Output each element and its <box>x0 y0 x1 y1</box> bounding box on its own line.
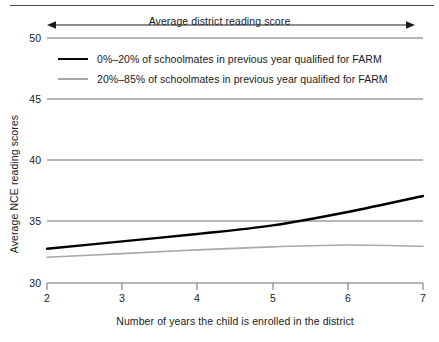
x-tick-label: 7 <box>408 292 438 304</box>
legend-item-black: 0%–20% of schoolmates in previous year q… <box>58 49 398 69</box>
x-tick-label: 6 <box>333 292 363 304</box>
y-tick-label: 50 <box>1 32 41 44</box>
x-tick-label: 3 <box>107 292 137 304</box>
x-tick-label: 2 <box>32 292 62 304</box>
chart-figure: Average district reading score <box>0 0 439 342</box>
x-axis-title: Number of years the child is enrolled in… <box>47 315 423 327</box>
legend-swatch-black-line-icon <box>58 53 88 65</box>
y-tick-label: 30 <box>1 277 41 289</box>
legend-label: 0%–20% of schoolmates in previous year q… <box>97 53 382 65</box>
y-tick-label: 40 <box>1 154 41 166</box>
legend-label: 20%–85% of schoolmates in previous year … <box>97 73 388 85</box>
x-axis-ticks <box>47 283 423 290</box>
chart-legend: 0%–20% of schoolmates in previous year q… <box>58 49 398 89</box>
x-tick-label: 4 <box>182 292 212 304</box>
series-line-gray <box>47 245 423 257</box>
annotation-arrow <box>47 21 415 28</box>
legend-item-gray: 20%–85% of schoolmates in previous year … <box>58 69 398 89</box>
y-tick-label: 35 <box>1 215 41 227</box>
y-axis-tick-labels: 50 45 40 35 30 <box>0 0 41 342</box>
y-axis-title: Average NCE reading scores <box>8 99 20 269</box>
x-tick-label: 5 <box>258 292 288 304</box>
y-tick-label: 45 <box>1 93 41 105</box>
legend-swatch-gray-line-icon <box>58 73 88 85</box>
series-line-black <box>47 196 423 249</box>
